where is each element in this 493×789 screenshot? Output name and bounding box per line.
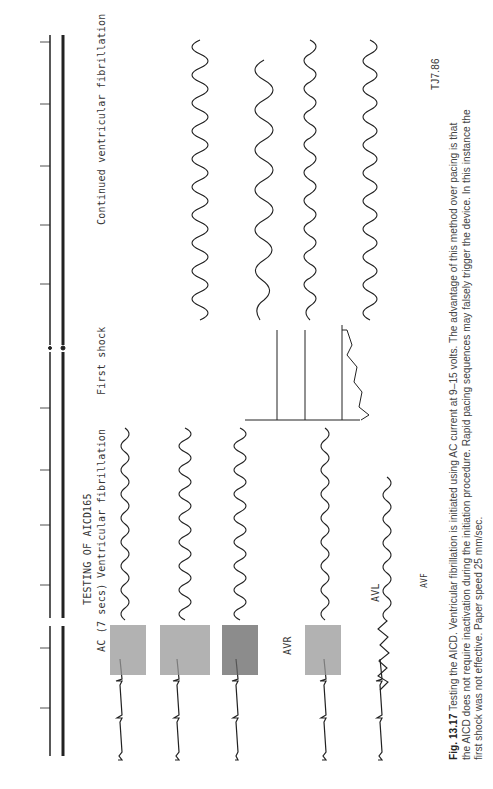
title-label: TESTING OF AICD <box>82 512 93 605</box>
figure-caption: Fig. 13.17 Testing the AICD. Ventricular… <box>448 20 486 760</box>
lead-label-avf: AVF <box>420 573 429 588</box>
caption-line-1: Testing the AICD. Ventricular fibrillati… <box>448 123 459 714</box>
ac-label: AC (7 secs) <box>96 584 107 652</box>
caption-line-2: the AICD does not require inactivation d… <box>461 20 474 760</box>
page-marker: 165 <box>82 493 93 512</box>
signature: TJ7.86 <box>430 58 441 90</box>
ac-artifact <box>110 625 341 675</box>
continued-vf-label: Continued ventricular fibrillation <box>96 14 107 226</box>
lead-label-avr: AVR <box>282 636 293 655</box>
continued-vf <box>192 40 377 320</box>
vf-label: Ventricular fibrillation <box>96 429 107 578</box>
shock-artifact <box>245 325 369 420</box>
ecg-tracing <box>0 0 493 789</box>
caption-label: Fig. 13.17 <box>448 714 459 760</box>
ecg-figure: 165 TESTING OF AICD AC (7 secs) Ventricu… <box>0 0 493 789</box>
lead-label-avl: AVL <box>370 583 381 602</box>
caption-line-3: first shock was not effective. Paper spe… <box>473 20 486 760</box>
time-axis <box>40 35 65 756</box>
first-shock-label: First shock <box>96 327 107 395</box>
